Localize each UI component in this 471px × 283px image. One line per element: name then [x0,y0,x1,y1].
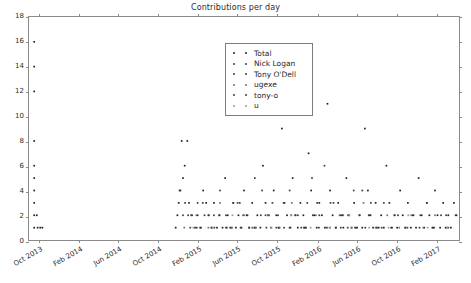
legend-label: u [252,101,259,110]
y-tick [26,167,29,168]
x-tick-top [437,14,438,17]
y-tick-right [459,67,462,68]
y-tick-right [459,17,462,18]
legend-item[interactable]: tony-o [228,90,309,101]
x-tick [158,240,159,243]
x-tick-top [237,14,238,17]
legend-marker-icon [228,84,252,86]
x-tick [118,240,119,243]
x-tick [397,240,398,243]
legend-item[interactable]: Nick Logan [228,59,309,70]
y-tick-label: 6 [0,162,24,170]
x-tick-label: Jun 2015 [202,245,242,273]
legend-item[interactable]: u [228,101,309,112]
legend-marker-icon [228,63,252,65]
x-tick-label: Oct 2014 [123,245,163,273]
y-tick-label: 10 [0,112,24,120]
x-tick-top [277,14,278,17]
y-tick [26,217,29,218]
legend-label: ugexe [252,80,277,89]
x-tick [237,240,238,243]
x-tick-label: Feb 2015 [163,245,203,273]
x-tick [277,240,278,243]
x-tick-label: Oct 2015 [242,245,282,273]
legend-item[interactable]: Total [228,48,309,59]
legend-label: Nick Logan [252,59,295,68]
x-tick [39,240,40,243]
x-tick-label: Jun 2014 [83,245,123,273]
y-tick [26,242,29,243]
x-tick-top [357,14,358,17]
x-tick-label: Feb 2014 [44,245,84,273]
legend-marker-icon [228,94,252,96]
y-tick [26,117,29,118]
legend-marker-icon [228,105,252,107]
y-tick-label: 14 [0,62,24,70]
legend-item[interactable]: ugexe [228,80,309,91]
x-tick-label: Jun 2016 [322,245,362,273]
chart-title: Contributions per day [0,3,471,12]
y-tick-label: 16 [0,37,24,45]
chart-legend: TotalNick LoganTony O'Dellugexetony-ou [225,43,313,116]
x-tick-label: Oct 2016 [362,245,402,273]
x-tick-label: Feb 2016 [282,245,322,273]
x-tick [318,240,319,243]
y-tick [26,42,29,43]
legend-marker-icon [228,52,252,54]
y-tick-right [459,242,462,243]
plot-axes: TotalNick LoganTony O'Dellugexetony-ou [28,16,460,241]
x-tick [198,240,199,243]
y-tick-right [459,167,462,168]
x-tick-top [39,14,40,17]
y-tick-right [459,92,462,93]
y-tick-label: 8 [0,137,24,145]
x-tick-top [79,14,80,17]
x-tick-label: Oct 2013 [3,245,43,273]
y-tick-label: 18 [0,12,24,20]
y-tick-label: 4 [0,187,24,195]
y-tick [26,192,29,193]
x-tick-top [198,14,199,17]
x-tick-label: Feb 2017 [402,245,442,273]
y-tick [26,92,29,93]
legend-label: Total [252,49,272,58]
x-tick [357,240,358,243]
x-tick [79,240,80,243]
y-tick [26,67,29,68]
y-tick-label: 0 [0,237,24,245]
y-tick-right [459,142,462,143]
x-tick-top [397,14,398,17]
y-tick-right [459,192,462,193]
y-tick-label: 12 [0,87,24,95]
x-tick [437,240,438,243]
y-tick-right [459,42,462,43]
y-tick-right [459,117,462,118]
y-tick-right [459,217,462,218]
series-u [192,214,448,228]
y-tick [26,142,29,143]
series-nick-logan [179,165,378,229]
x-tick-top [318,14,319,17]
chart-figure: Contributions per day TotalNick LoganTon… [0,0,471,283]
x-tick-top [118,14,119,17]
y-tick [26,17,29,18]
legend-label: tony-o [252,91,278,100]
legend-marker-icon [228,73,252,75]
legend-item[interactable]: Tony O'Dell [228,69,309,80]
x-tick-top [158,14,159,17]
y-tick-label: 2 [0,212,24,220]
legend-label: Tony O'Dell [252,70,296,79]
